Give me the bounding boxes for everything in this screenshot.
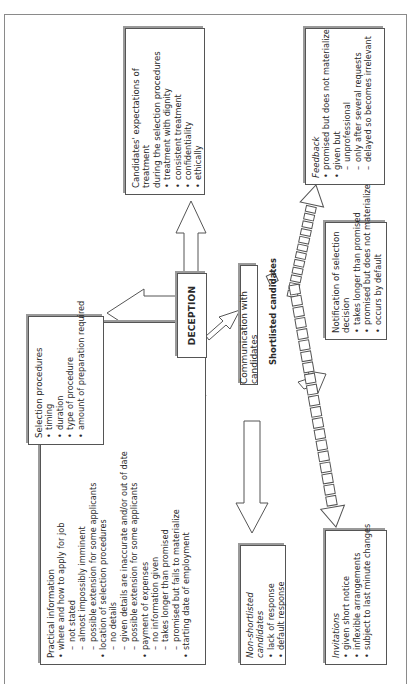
list-item: confidentiality [183, 35, 193, 188]
arrow-segment [305, 373, 316, 384]
list-item: consistent treatment [173, 35, 183, 188]
list-item: given short notice [341, 537, 351, 658]
arrow-segment [316, 440, 327, 451]
arrow-segment [324, 484, 335, 495]
arrow-head [300, 182, 328, 207]
list-item: occurs by default [373, 229, 383, 333]
selection-procedures-box: Selection procedures timingdurationtype … [28, 316, 104, 445]
sub-list-item: only after several requests [353, 35, 363, 178]
arrow-segment [295, 252, 306, 260]
arrow-segment [326, 495, 337, 506]
sub-list-item: promised but fails to materialize [171, 329, 181, 658]
selection-procedures-list: timingdurationtype of procedureamount of… [44, 323, 86, 438]
list-item: promised but does not materialize [362, 229, 372, 333]
notification-list: takes longer than promisedpromised but d… [352, 229, 383, 333]
arrow-to-non-shortlisted [236, 421, 268, 533]
arrow-segment [305, 205, 316, 213]
sub-list-item: no details [108, 329, 118, 658]
list-item: takes longer than promised [352, 229, 362, 333]
arrow-head [321, 505, 348, 529]
expectations-list: treatment with dignityconsistent treatme… [162, 35, 204, 188]
arrow-segment [289, 284, 300, 295]
list-item: amount of preparation required [76, 323, 86, 438]
invitations-box: Invitations given short noticeinflexible… [325, 530, 387, 665]
arrow-segment [312, 418, 323, 429]
list-item: type of procedure [65, 323, 75, 438]
communication-box: Communication with candidates [240, 265, 258, 385]
arrow-segment [299, 236, 310, 244]
arrow-segment [300, 229, 311, 237]
list-item: default response [276, 552, 286, 658]
deception-diagram: Practical information where and how to a… [4, 14, 408, 685]
segmented-arrow-to-feedback [287, 182, 328, 298]
sub-list-item: possible extension for some applicants [129, 329, 139, 658]
notification-box: Notification of selection decision takes… [325, 222, 387, 340]
arrow-segment [293, 306, 304, 317]
list-item: lack of response [266, 552, 276, 658]
non-shortlisted-title: Non-shortlisted candidates [245, 552, 266, 658]
selection-procedures-title: Selection procedures [34, 323, 44, 438]
list-item: starting date of employment [181, 329, 191, 658]
arrow-segment [294, 259, 305, 267]
arrow-segment [322, 473, 333, 484]
sub-list-item: unprofessional [342, 35, 352, 178]
arrow-segment [302, 221, 313, 229]
arrow-segment [291, 295, 302, 306]
list-item: promised but does not materialize [321, 35, 331, 178]
list-item: given but [332, 35, 342, 178]
feedback-title: Feedback [311, 35, 321, 178]
list-item: payment of expenses [140, 329, 150, 658]
feedback-list: promised but does not materializegiven b… [321, 35, 373, 178]
arrow-segment [310, 406, 321, 417]
list-item: treatment with dignity [162, 35, 172, 188]
arrow-segment [290, 275, 301, 283]
list-item: duration [55, 323, 65, 438]
expectations-title-line2: during the selection procedures [152, 35, 162, 188]
arrow-to-communication [206, 310, 240, 340]
sub-list-item: delayed so becomes irrelevant [363, 35, 373, 178]
list-item: timing [44, 323, 54, 438]
list-item: subject to last minute changes [362, 537, 372, 658]
non-shortlisted-box: Non-shortlisted candidates lack of respo… [240, 545, 286, 665]
arrow-segment [320, 462, 331, 473]
arrow-segment [299, 340, 310, 351]
arrow-segment [295, 317, 306, 328]
arrow-segment [292, 267, 303, 275]
sub-list-item: takes longer than promised [160, 329, 170, 658]
arrow-segment [306, 384, 317, 395]
list-item: inflexible arrangements [352, 537, 362, 658]
sub-list-item: no information given [150, 329, 160, 658]
arrow-segment [318, 451, 329, 462]
feedback-box: Feedback promised but does not materiali… [305, 28, 385, 185]
arrow-segment [297, 244, 308, 252]
arrow-segment [297, 329, 308, 340]
arrow-to-expectations [176, 201, 206, 273]
notification-title: Notification of selection decision [331, 229, 352, 333]
arrow-segment [301, 351, 312, 362]
non-shortlisted-list: lack of responsedefault response [266, 552, 287, 658]
invitations-list: given short noticeinflexible arrangement… [341, 537, 372, 658]
expectations-title-line1: Candidates' expectations of treatment [131, 35, 152, 188]
expectations-box: Candidates' expectations of treatment du… [125, 28, 205, 195]
invitations-title: Invitations [331, 537, 341, 658]
arrow-segment [303, 362, 314, 373]
communication-label: Communication with candidates [239, 266, 260, 384]
arrow-segment [308, 395, 319, 406]
deception-box: DECEPTION [177, 273, 207, 358]
arrow-segment [304, 213, 315, 221]
arrow-segment [314, 429, 325, 440]
deception-label: DECEPTION [187, 286, 197, 345]
sub-list-item: given details are inaccurate and/or out … [119, 329, 129, 658]
list-item: ethically [193, 35, 203, 188]
shortlisted-candidates-label: Shortlisted candidates [268, 258, 278, 365]
